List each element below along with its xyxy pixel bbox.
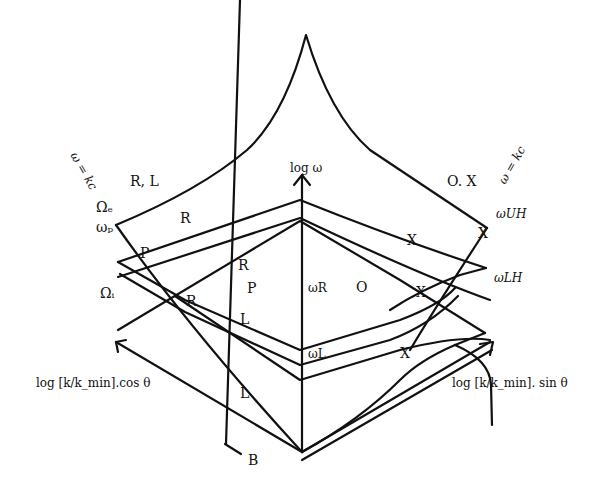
mode-label-r1: R xyxy=(180,210,191,226)
right-axis xyxy=(302,342,490,452)
mode-label-l2: L xyxy=(240,385,249,401)
mode-label-x4: X xyxy=(400,345,410,361)
b-field-label: B xyxy=(248,452,258,468)
omega-i-label: Ωᵢ xyxy=(100,285,115,301)
omega-p-label: ωₚ xyxy=(96,219,113,235)
right-axis-label: log [k/k_min]. sin θ xyxy=(452,376,568,390)
dispersion-surface-diagram: ω = kc Ωₑ ωₚ Ωᵢ ω = kc ωUH ωLH log ω ωR … xyxy=(0,0,599,490)
mode-label-p2: P xyxy=(247,280,256,296)
left-light-line-label: ω = kc xyxy=(67,150,100,193)
omega-r-label: ωR xyxy=(308,281,328,295)
mode-label-l1: L xyxy=(240,311,249,327)
mode-label-rl: R, L xyxy=(130,173,159,189)
mode-label-o1: O xyxy=(356,279,367,295)
omega-uh-label: ωUH xyxy=(496,207,527,221)
mode-label-x2: X xyxy=(478,225,488,241)
left-axis-label: log [k/k_min].cos θ xyxy=(36,376,150,390)
omega-p-surface xyxy=(118,218,490,300)
mode-label-x3: X xyxy=(416,284,426,300)
omega-l-label: ωL xyxy=(308,347,326,361)
mode-label-ox: O. X xyxy=(447,173,477,189)
b-field-arrow-shaft xyxy=(225,444,241,454)
mode-label-r3: R xyxy=(186,293,197,309)
right-axis-inner xyxy=(302,350,492,460)
right-light-line-label: ω = kc xyxy=(495,143,528,186)
left-axis xyxy=(116,342,302,452)
mode-label-p1: P xyxy=(140,245,149,261)
mode-label-r2: R xyxy=(238,257,249,273)
mode-label-x1: X xyxy=(407,232,417,248)
omega-lh-label: ωLH xyxy=(494,271,523,285)
omega-r-surface xyxy=(118,262,455,350)
log-omega-label: log ω xyxy=(290,161,323,175)
omega-e-label: Ωₑ xyxy=(96,199,113,215)
omega-l-surface xyxy=(175,296,490,380)
